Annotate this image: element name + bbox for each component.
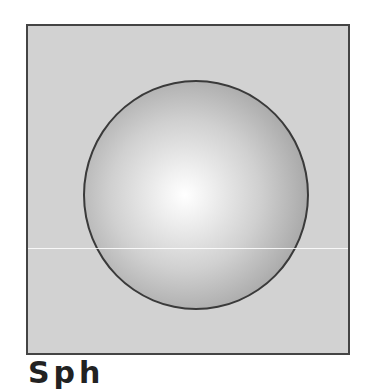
caption-text: Sph bbox=[28, 358, 104, 388]
scan-line bbox=[28, 248, 348, 249]
figure-frame bbox=[26, 24, 350, 355]
shaded-sphere bbox=[83, 80, 309, 310]
